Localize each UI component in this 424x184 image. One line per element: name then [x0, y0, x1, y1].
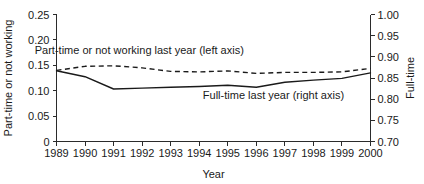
x-axis-tick-label: 1999: [330, 147, 354, 159]
x-axis-tick-label: 1993: [158, 147, 182, 159]
series-line-part-time: [57, 66, 371, 74]
x-axis-tick-label: 1998: [301, 147, 325, 159]
x-axis-tick-label: 1992: [130, 147, 154, 159]
line-chart: 00.050.100.150.200.250.700.750.800.850.9…: [0, 0, 424, 184]
left-axis-tick-label: 0.25: [28, 9, 49, 21]
left-axis-title: Part-time or not working: [2, 20, 14, 137]
right-axis-tick-label: 0.75: [378, 114, 399, 126]
x-axis-tick-label: 1989: [44, 147, 68, 159]
chart-container: 00.050.100.150.200.250.700.750.800.850.9…: [0, 0, 424, 184]
left-axis-tick-label: 0.05: [28, 110, 49, 122]
x-axis-tick-label: 1996: [244, 147, 268, 159]
x-axis-title: Year: [202, 168, 225, 180]
axes: 00.050.100.150.200.250.700.750.800.850.9…: [28, 9, 399, 159]
x-axis-tick-label: 1994: [187, 147, 211, 159]
left-axis-tick-label: 0.15: [28, 59, 49, 71]
right-axis-tick-label: 0.95: [378, 30, 399, 42]
right-axis-tick-label: 0.90: [378, 51, 399, 63]
series-line-full-time: [57, 71, 371, 89]
data-series: [57, 66, 371, 89]
x-axis-tick-label: 1991: [101, 147, 125, 159]
series-label-part-time: Part-time or not working last year (left…: [35, 44, 244, 56]
right-axis-title: Full-time: [404, 57, 416, 99]
right-axis-tick-label: 1.00: [378, 9, 399, 21]
right-axis-tick-label: 0.85: [378, 72, 399, 84]
series-label-full-time: Full-time last year (right axis): [203, 89, 344, 101]
x-axis-tick-label: 1997: [273, 147, 297, 159]
left-axis-tick-label: 0.10: [28, 85, 49, 97]
x-axis-tick-label: 1995: [216, 147, 240, 159]
x-axis-tick-label: 1990: [73, 147, 97, 159]
right-axis-tick-label: 0.80: [378, 93, 399, 105]
x-axis-tick-label: 2000: [358, 147, 382, 159]
